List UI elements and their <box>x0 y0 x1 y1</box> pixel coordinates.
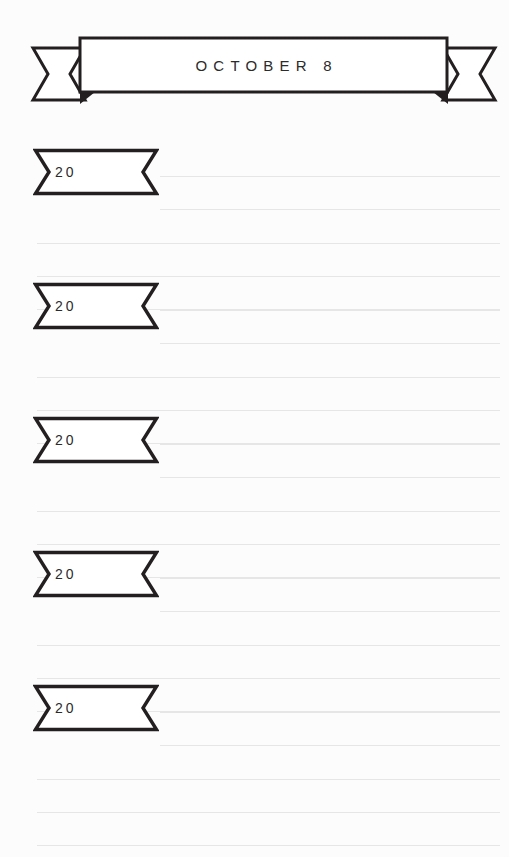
rule-line <box>37 410 500 411</box>
rule-line <box>160 712 500 713</box>
rule-line <box>160 209 500 210</box>
banner-right-tail <box>443 48 495 100</box>
ribbon-tag-icon <box>33 148 159 196</box>
rule-line <box>160 611 500 612</box>
rule-line <box>160 343 500 344</box>
banner-right-fold <box>433 92 448 104</box>
rule-line <box>37 377 500 378</box>
rule-line <box>37 812 500 813</box>
year-ribbon-2[interactable] <box>33 282 159 330</box>
rule-line <box>37 645 500 646</box>
year-ribbon-1[interactable] <box>33 148 159 196</box>
banner-left-fold <box>80 92 95 104</box>
rule-line <box>37 243 500 244</box>
rule-line <box>160 444 500 445</box>
year-ribbon-4[interactable] <box>33 550 159 598</box>
rule-line <box>160 310 500 311</box>
rule-line <box>160 176 500 177</box>
year-entry-section: 20 <box>0 684 509 857</box>
journal-page: OCTOBER 8 20 20 <box>0 0 509 857</box>
year-ribbon-3[interactable] <box>33 416 159 464</box>
rule-line <box>37 544 500 545</box>
rule-line <box>37 276 500 277</box>
banner-left-tail <box>33 48 85 100</box>
year-ribbon-5[interactable] <box>33 684 159 732</box>
rule-line <box>160 745 500 746</box>
rule-line <box>37 511 500 512</box>
rule-line <box>37 779 500 780</box>
ribbon-tag-icon <box>33 684 159 732</box>
rule-line <box>37 678 500 679</box>
ribbon-tag-icon <box>33 550 159 598</box>
header-banner: OCTOBER 8 <box>0 0 509 120</box>
rule-line <box>160 578 500 579</box>
rule-line <box>160 477 500 478</box>
rule-line <box>37 845 500 846</box>
ribbon-tag-icon <box>33 416 159 464</box>
ribbon-tag-icon <box>33 282 159 330</box>
banner-body <box>80 38 447 92</box>
ribbon-banner-icon <box>0 0 509 120</box>
